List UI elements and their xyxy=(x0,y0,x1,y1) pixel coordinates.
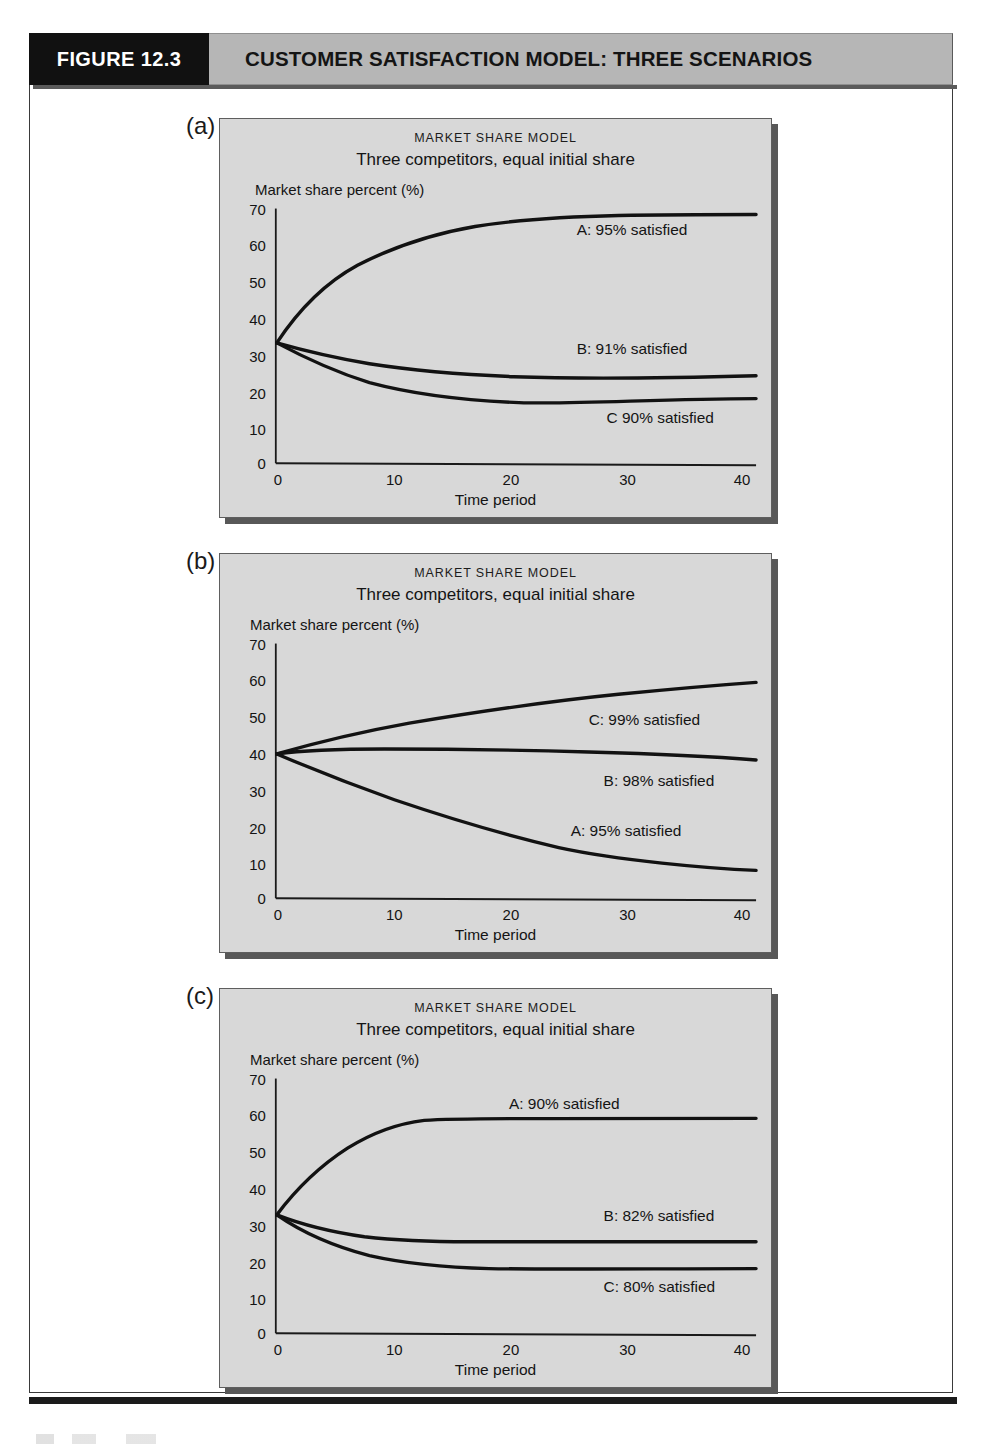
x-axis-line-a xyxy=(276,463,756,465)
chart-panel-c: MARKET SHARE MODEL Three competitors, eq… xyxy=(219,988,772,1388)
series-label-c-0: A: 90% satisfied xyxy=(509,1095,620,1112)
y-tick-b-50: 50 xyxy=(249,709,266,726)
y-tick-c-40: 40 xyxy=(249,1181,266,1198)
y-tick-a-40: 40 xyxy=(249,311,266,328)
x-tick-c-10: 10 xyxy=(386,1341,403,1358)
y-tick-b-20: 20 xyxy=(249,820,266,837)
chart-panel-b-wrapper: (b) MARKET SHARE MODEL Three competitors… xyxy=(186,547,786,967)
x-axis-line-c xyxy=(276,1333,756,1335)
y-tick-a-20: 20 xyxy=(249,385,266,402)
series-label-a-2: C 90% satisfied xyxy=(607,409,714,426)
chart-panel-a-wrapper: (a) MARKET SHARE MODEL Three competitors… xyxy=(186,112,786,532)
series-label-b-0: C: 99% satisfied xyxy=(589,711,701,728)
curve-b-series-B xyxy=(277,749,756,760)
series-label-c-2: C: 80% satisfied xyxy=(604,1278,716,1295)
plot-area-b: 70 60 50 40 30 20 10 0 0 10 20 30 40 C: … xyxy=(220,554,771,952)
series-label-b-2: A: 95% satisfied xyxy=(571,822,682,839)
y-tick-a-0: 0 xyxy=(258,455,266,472)
y-tick-c-0: 0 xyxy=(258,1325,266,1342)
y-tick-a-60: 60 xyxy=(249,237,266,254)
y-tick-c-20: 20 xyxy=(249,1255,266,1272)
y-tick-b-30: 30 xyxy=(249,783,266,800)
y-tick-c-70: 70 xyxy=(249,1071,266,1088)
y-tick-c-50: 50 xyxy=(249,1144,266,1161)
header-shadow xyxy=(33,85,957,89)
y-tick-b-40: 40 xyxy=(249,746,266,763)
figure-title: CUSTOMER SATISFACTION MODEL: THREE SCENA… xyxy=(245,47,812,71)
x-tick-c-30: 30 xyxy=(619,1341,636,1358)
x-tick-a-20: 20 xyxy=(503,471,520,488)
x-tick-b-30: 30 xyxy=(619,906,636,923)
curve-c-series-A xyxy=(277,1118,756,1215)
y-tick-c-10: 10 xyxy=(249,1291,266,1308)
y-tick-c-30: 30 xyxy=(249,1218,266,1235)
panel-letter-b: (b) xyxy=(186,547,215,575)
x-tick-b-20: 20 xyxy=(503,906,520,923)
figure-number-box: FIGURE 12.3 xyxy=(29,33,209,85)
x-tick-a-40: 40 xyxy=(734,471,751,488)
panel-letter-a: (a) xyxy=(186,112,215,140)
chart-panel-c-wrapper: (c) MARKET SHARE MODEL Three competitors… xyxy=(186,982,786,1402)
y-tick-b-70: 70 xyxy=(249,636,266,653)
panel-letter-c: (c) xyxy=(186,982,214,1010)
x-tick-a-0: 0 xyxy=(274,471,282,488)
series-label-b-1: B: 98% satisfied xyxy=(604,772,715,789)
x-tick-a-10: 10 xyxy=(386,471,403,488)
y-tick-a-50: 50 xyxy=(249,274,266,291)
y-tick-a-10: 10 xyxy=(249,421,266,438)
chart-panel-b: MARKET SHARE MODEL Three competitors, eq… xyxy=(219,553,772,953)
y-tick-b-60: 60 xyxy=(249,672,266,689)
x-tick-c-0: 0 xyxy=(274,1341,282,1358)
x-tick-c-20: 20 xyxy=(503,1341,520,1358)
plot-area-c: 70 60 50 40 30 20 10 0 0 10 20 30 40 A: … xyxy=(220,989,771,1387)
x-tick-b-10: 10 xyxy=(386,906,403,923)
series-label-c-1: B: 82% satisfied xyxy=(604,1207,715,1224)
x-tick-c-40: 40 xyxy=(734,1341,751,1358)
y-tick-b-10: 10 xyxy=(249,856,266,873)
figure-number-label: FIGURE 12.3 xyxy=(57,48,181,71)
figure-header: FIGURE 12.3 CUSTOMER SATISFACTION MODEL:… xyxy=(29,33,953,85)
y-tick-a-70: 70 xyxy=(249,201,266,218)
footer-partial-text xyxy=(36,1434,336,1444)
y-tick-c-60: 60 xyxy=(249,1107,266,1124)
figure-title-box: CUSTOMER SATISFACTION MODEL: THREE SCENA… xyxy=(209,33,953,85)
x-tick-a-30: 30 xyxy=(619,471,636,488)
chart-panel-a: MARKET SHARE MODEL Three competitors, eq… xyxy=(219,118,772,518)
x-axis-line-b xyxy=(276,898,756,900)
plot-area-a: 70 60 50 40 30 20 10 0 0 10 20 30 40 A: … xyxy=(220,119,771,517)
figure-bottom-rule xyxy=(29,1397,957,1404)
x-tick-b-40: 40 xyxy=(734,906,751,923)
series-label-a-0: A: 95% satisfied xyxy=(577,221,688,238)
y-tick-b-0: 0 xyxy=(258,890,266,907)
series-label-a-1: B: 91% satisfied xyxy=(577,340,688,357)
x-tick-b-0: 0 xyxy=(274,906,282,923)
y-tick-a-30: 30 xyxy=(249,348,266,365)
